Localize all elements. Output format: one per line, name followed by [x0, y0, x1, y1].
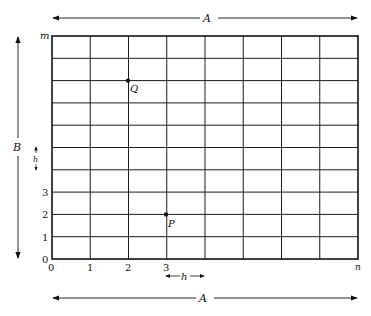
point-p-label: P — [167, 218, 175, 229]
row-spacing-label: h — [33, 155, 38, 164]
x-tick-1: 1 — [87, 262, 93, 273]
y-tick-1: 1 — [42, 232, 48, 243]
col-spacing-label: h — [181, 271, 187, 282]
side-dimension-label: B — [12, 141, 21, 154]
grid-lines — [52, 36, 358, 259]
side-dimension-arrow: B — [12, 37, 21, 258]
col-spacing-arrow: h — [166, 271, 204, 282]
x-tick-labels: 0 1 2 3 — [48, 262, 169, 273]
bottom-dimension-arrow: A — [53, 292, 357, 305]
y-tick-2: 2 — [42, 209, 48, 220]
x-tick-2: 2 — [125, 262, 131, 273]
x-axis-end-label: n — [355, 262, 361, 272]
y-tick-0: 0 — [42, 254, 48, 265]
y-tick-labels: 0 1 2 3 — [42, 187, 48, 265]
grid-diagram: A A B h h m n 0 1 2 3 0 1 2 3 — [0, 0, 371, 316]
y-axis-end-label: m — [40, 30, 49, 41]
row-spacing-arrow: h — [33, 147, 38, 170]
top-dimension-label: A — [202, 12, 211, 25]
top-dimension-arrow: A — [53, 12, 357, 25]
bottom-dimension-label: A — [198, 292, 207, 305]
y-tick-3: 3 — [42, 187, 48, 198]
point-q-label: Q — [130, 83, 138, 94]
x-tick-3: 3 — [163, 262, 169, 273]
point-p-marker — [164, 212, 168, 216]
x-tick-0: 0 — [48, 262, 54, 273]
